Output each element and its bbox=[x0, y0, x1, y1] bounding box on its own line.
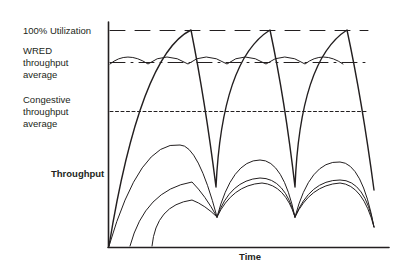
flow-curve-1 bbox=[109, 145, 374, 246]
flow-curve-3 bbox=[152, 183, 374, 246]
throughput-diagram bbox=[0, 0, 405, 267]
